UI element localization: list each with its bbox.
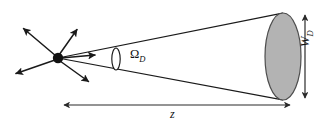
acceptance-cone: [58, 13, 283, 100]
ray-lower-left: [16, 60, 55, 74]
diagram-canvas: [0, 0, 325, 124]
solid-angle-subscript: D: [139, 54, 145, 64]
aperture-ellipse-outline: [112, 48, 120, 70]
distance-label: z: [170, 108, 175, 120]
detector-disk: [265, 13, 301, 100]
solid-angle-label: ΩD: [130, 48, 145, 63]
solid-angle-symbol: Ω: [130, 47, 139, 61]
detector-width-symbol: W: [298, 37, 312, 47]
cone-edge-upper: [58, 13, 283, 58]
ray-upper-right: [59, 30, 77, 56]
scattering-solid-angle-diagram: ΩD WD z: [0, 0, 325, 124]
cone-edge-lower: [58, 58, 283, 100]
scattering-point-dot: [53, 53, 63, 63]
solid-angle-aperture-ellipse: [112, 48, 120, 70]
scattering-point-circle: [53, 53, 63, 63]
detector-width-subscript: D: [305, 30, 315, 36]
ray-lower-right: [60, 61, 89, 82]
detector-width-label: WD: [299, 30, 314, 47]
ray-upper-left: [24, 29, 57, 57]
detector-disk-ellipse: [265, 13, 301, 100]
distance-symbol: z: [170, 107, 175, 121]
